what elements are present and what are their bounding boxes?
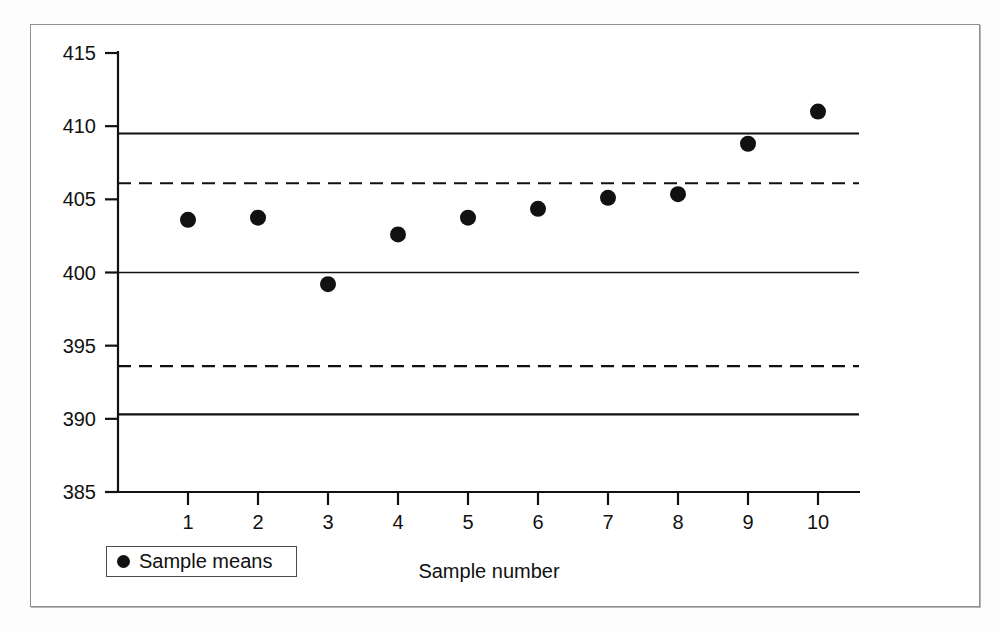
sample-mean-point[interactable]	[670, 186, 686, 202]
x-axis-tick-label: 8	[672, 511, 683, 534]
chart-plot-svg	[31, 25, 981, 608]
y-axis-tick-label: 400	[31, 261, 96, 284]
x-axis-tick-label: 5	[462, 511, 473, 534]
control-chart: 415410405400395390385 12345678910 Sample…	[31, 25, 981, 608]
legend-item-label: Sample means	[139, 550, 272, 573]
sample-mean-point[interactable]	[460, 210, 476, 226]
x-axis-tick-label: 1	[182, 511, 193, 534]
y-axis-tick-label: 405	[31, 188, 96, 211]
y-axis-tick-label: 390	[31, 407, 96, 430]
sample-mean-point[interactable]	[320, 276, 336, 292]
axis-lines	[118, 51, 860, 492]
x-axis-tick-label: 3	[322, 511, 333, 534]
x-axis-tick-label: 6	[532, 511, 543, 534]
figure-frame: 415410405400395390385 12345678910 Sample…	[30, 24, 980, 607]
y-axis-tick-label: 415	[31, 42, 96, 65]
chart-legend[interactable]: Sample means	[106, 546, 297, 577]
sample-mean-point[interactable]	[250, 210, 266, 226]
y-axis-ticks	[105, 53, 118, 492]
sample-mean-point[interactable]	[740, 136, 756, 152]
y-axis-tick-label: 410	[31, 115, 96, 138]
sample-mean-markers	[180, 104, 826, 293]
x-axis-tick-label: 4	[392, 511, 403, 534]
filled-circle-icon	[117, 555, 130, 568]
x-axis-tick-label: 2	[252, 511, 263, 534]
x-axis-title: Sample number	[418, 560, 559, 583]
x-axis-tick-label: 7	[602, 511, 613, 534]
page-background: 415410405400395390385 12345678910 Sample…	[0, 0, 1001, 632]
sample-mean-point[interactable]	[600, 190, 616, 206]
control-limit-lines	[118, 133, 859, 414]
x-axis-tick-label: 9	[742, 511, 753, 534]
y-axis-tick-label: 385	[31, 481, 96, 504]
sample-mean-point[interactable]	[530, 201, 546, 217]
x-axis-tick-label: 10	[807, 511, 829, 534]
x-axis-ticks	[188, 492, 818, 505]
y-axis-tick-label: 395	[31, 334, 96, 357]
sample-mean-point[interactable]	[810, 104, 826, 120]
sample-mean-point[interactable]	[390, 226, 406, 242]
sample-mean-point[interactable]	[180, 212, 196, 228]
